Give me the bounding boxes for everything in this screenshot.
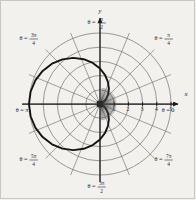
- angle-labels: θ = 0θ =π4θ =π2θ =3π4θ = πθ =5π4θ =3π2θ …: [16, 16, 175, 193]
- svg-text:θ =: θ =: [87, 18, 96, 25]
- svg-text:4: 4: [167, 40, 170, 46]
- svg-text:5π: 5π: [31, 153, 37, 159]
- svg-text:7π: 7π: [166, 153, 172, 159]
- theta-0-label: θ = 0: [162, 106, 175, 113]
- svg-text:π: π: [100, 16, 103, 22]
- svg-text:θ = π: θ = π: [16, 106, 30, 113]
- polar-plot-figure: 12345 θ = 0θ =π4θ =π2θ =3π4θ = πθ =5π4θ …: [0, 0, 196, 200]
- svg-text:θ =: θ =: [19, 34, 28, 41]
- theta-pi-4-label: θ =π4: [154, 32, 172, 45]
- svg-text:3π: 3π: [31, 32, 37, 38]
- x-tick-label: 3: [141, 106, 144, 112]
- theta-5pi-4-label: θ =5π4: [19, 153, 37, 166]
- svg-text:θ =: θ =: [87, 182, 96, 189]
- svg-text:π: π: [167, 32, 170, 38]
- svg-text:4: 4: [32, 161, 35, 167]
- svg-text:θ =: θ =: [19, 155, 28, 162]
- svg-text:4: 4: [32, 40, 35, 46]
- theta-3pi-2-label: θ =3π2: [87, 180, 105, 193]
- x-tick-label: 4: [155, 106, 158, 112]
- svg-text:3π: 3π: [99, 180, 105, 186]
- theta-pi-label: θ = π: [16, 106, 30, 113]
- svg-text:θ =: θ =: [154, 34, 163, 41]
- svg-text:2: 2: [100, 188, 103, 194]
- theta-pi-2-label: θ =π2: [87, 16, 105, 29]
- theta-7pi-4-label: θ =7π4: [154, 153, 172, 166]
- theta-3pi-4-label: θ =3π4: [19, 32, 37, 45]
- x-tick-label: 2: [127, 106, 130, 112]
- polar-plot-canvas: 12345 θ = 0θ =π4θ =π2θ =3π4θ = πθ =5π4θ …: [0, 0, 196, 200]
- x-axis-label: x: [183, 90, 188, 98]
- y-axis-label: y: [97, 7, 102, 15]
- svg-text:θ = 0: θ = 0: [162, 106, 175, 113]
- svg-text:2: 2: [100, 24, 103, 30]
- svg-text:θ =: θ =: [154, 155, 163, 162]
- svg-text:4: 4: [167, 161, 170, 167]
